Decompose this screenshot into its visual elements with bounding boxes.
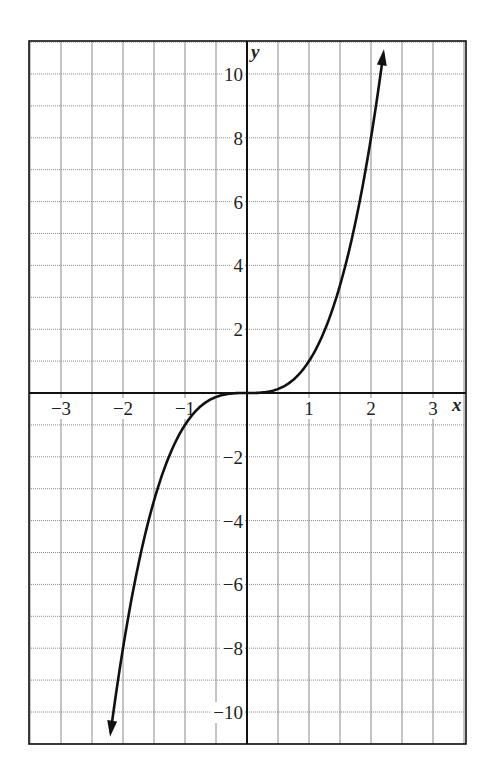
- y-tick-label: −8: [223, 638, 243, 659]
- y-tick-label: −10: [213, 702, 243, 723]
- y-tick-label: 4: [234, 255, 244, 276]
- y-tick-label: −4: [223, 511, 244, 532]
- arrowhead-icon: [107, 720, 117, 737]
- y-tick-label: 6: [234, 192, 244, 213]
- y-axis-label: y: [249, 41, 260, 62]
- x-axis-label: x: [451, 394, 462, 415]
- y-tick-label: −6: [223, 574, 243, 595]
- tick-labels: −3−2−1123−10−8−6−4−2246810xy: [50, 41, 462, 723]
- cubic-function-graph: −3−2−1123−10−8−6−4−2246810xy: [0, 0, 489, 772]
- x-tick-label: 1: [304, 398, 314, 419]
- x-tick-label: −2: [113, 398, 133, 419]
- y-tick-label: 8: [234, 128, 244, 149]
- y-tick-label: 2: [234, 319, 244, 340]
- x-tick-label: 3: [428, 398, 438, 419]
- y-tick-label: −2: [223, 447, 243, 468]
- arrowhead-icon: [377, 49, 387, 66]
- x-tick-label: 2: [366, 398, 376, 419]
- x-tick-label: −3: [51, 398, 71, 419]
- y-tick-label: 10: [224, 64, 243, 85]
